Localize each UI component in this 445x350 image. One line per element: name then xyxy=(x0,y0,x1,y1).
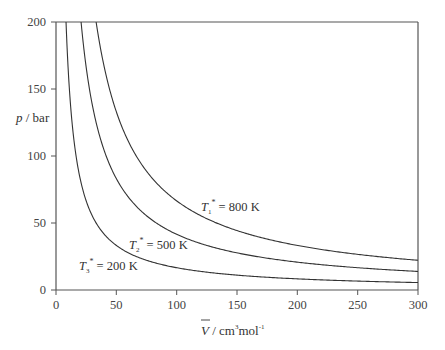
x-ticks xyxy=(56,290,418,295)
y-tick-label: 50 xyxy=(34,216,47,230)
y-tick-label: 150 xyxy=(27,82,46,96)
curve-label-200K: T3* = 200 K xyxy=(79,257,138,275)
x-tick-label: 100 xyxy=(167,298,186,312)
isotherm-chart: 0 50 100 150 200 0 50 100 150 200 250 30… xyxy=(0,0,445,350)
curve-label-800K: T1* = 800 K xyxy=(201,198,260,216)
x-tick-label: 250 xyxy=(348,298,367,312)
plot-frame xyxy=(56,22,418,290)
y-tick-label: 0 xyxy=(40,283,46,297)
y-tick-label: 200 xyxy=(27,15,46,29)
y-axis-label: p / bar xyxy=(15,110,50,125)
x-tick-label: 200 xyxy=(288,298,307,312)
x-tick-label: 0 xyxy=(53,298,59,312)
isotherm-200K xyxy=(66,22,418,283)
x-axis-label: V / cm3mol-1 xyxy=(201,320,265,338)
x-tick-labels: 0 50 100 150 200 250 300 xyxy=(53,298,428,312)
x-tick-label: 50 xyxy=(110,298,123,312)
x-tick-label: 150 xyxy=(228,298,247,312)
curves xyxy=(66,22,418,283)
curve-label-500K: T2* = 500 K xyxy=(129,236,188,254)
y-tick-labels: 0 50 100 150 200 xyxy=(27,15,46,297)
svg-text:V / cm3mol-1: V / cm3mol-1 xyxy=(201,323,265,338)
y-tick-label: 100 xyxy=(27,149,46,163)
isotherm-800K xyxy=(96,22,418,260)
x-tick-label: 300 xyxy=(409,298,428,312)
y-ticks xyxy=(51,22,56,290)
